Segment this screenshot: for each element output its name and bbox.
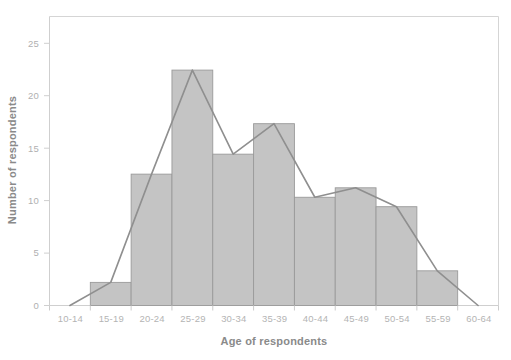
chart-figure: 0 5 10 15 20 25 Number of respondents 10… [0,0,511,360]
x-tick-label-55-59: 55-59 [425,313,450,324]
bar-40-44 [294,197,335,305]
x-tick-label-20-24: 20-24 [139,313,164,324]
y-tick-label-0: 0 [34,300,39,311]
y-axis-title: Number of respondents [6,96,18,224]
x-tick-label-10-14: 10-14 [58,313,83,324]
bar-20-24 [131,174,172,305]
y-tick-label-15: 15 [28,143,39,154]
bar-45-49 [335,188,376,306]
bar-15-19 [90,282,131,305]
bar-50-54 [376,207,417,306]
y-tick-label-25: 25 [28,38,39,49]
x-axis-title: Age of respondents [221,335,328,347]
x-tick-label-60-64: 60-64 [466,313,491,324]
x-axis-tick-labels: 10-14 15-19 20-24 25-29 30-34 35-39 40-4… [58,313,492,324]
x-tick-label-15-19: 15-19 [99,313,124,324]
x-tick-label-35-39: 35-39 [262,313,287,324]
y-tick-label-10: 10 [28,195,39,206]
y-tick-label-20: 20 [28,90,39,101]
y-tick-label-5: 5 [34,247,39,258]
bar-30-34 [213,154,254,305]
histogram-frequency-polygon-chart: 0 5 10 15 20 25 Number of respondents 10… [0,0,511,360]
bar-55-59 [417,271,458,306]
x-tick-label-30-34: 30-34 [221,313,246,324]
x-tick-label-25-29: 25-29 [180,313,205,324]
x-tick-label-40-44: 40-44 [303,313,328,324]
x-tick-label-45-49: 45-49 [344,313,369,324]
x-tick-label-50-54: 50-54 [385,313,410,324]
